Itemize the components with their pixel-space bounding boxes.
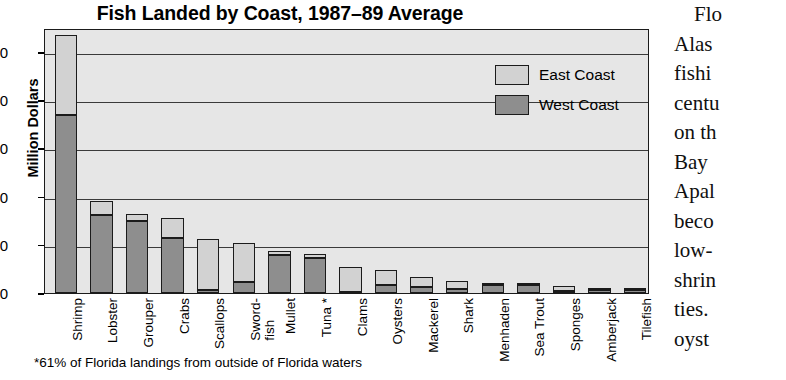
x-tick-label-sponges: Sponges xyxy=(569,298,583,351)
bar-segment-west-coast xyxy=(517,285,539,293)
x-tick-label-crabs: Crabs xyxy=(178,298,192,334)
bar-tuna- xyxy=(304,254,326,293)
bar-scallops xyxy=(197,239,219,293)
bar-segment-west-coast xyxy=(233,282,255,293)
legend-label: East Coast xyxy=(539,66,615,84)
bar-segment-west-coast xyxy=(161,238,183,293)
chart-footnote: *61% of Florida landings from outside of… xyxy=(34,355,362,370)
bar-segment-east-coast xyxy=(197,239,219,290)
bar-segment-west-coast xyxy=(410,287,432,293)
bar-segment-west-coast xyxy=(197,290,219,293)
bar-segment-west-coast xyxy=(375,285,397,293)
bar-segment-west-coast xyxy=(55,115,77,293)
article-text-line: Alas xyxy=(660,30,786,60)
y-tick-label-40: 40 xyxy=(0,92,8,109)
x-tick-label-mackerel: Mackerel xyxy=(427,298,441,353)
y-tick-label-50: 50 xyxy=(0,44,8,61)
article-text-line: Apal xyxy=(660,177,786,207)
article-text-line: shrin xyxy=(660,266,786,296)
bar-segment-west-coast xyxy=(553,291,575,293)
bar-crabs xyxy=(161,218,183,293)
x-tick-label-sword-fish: Sword- fish xyxy=(249,298,276,341)
bar-clams xyxy=(339,267,361,294)
bar-segment-west-coast xyxy=(482,285,504,293)
bar-segment-east-coast xyxy=(90,201,112,214)
chart-figure: Fish Landed by Coast, 1987–89 Average 01… xyxy=(0,0,660,380)
bar-oysters xyxy=(375,270,397,293)
bar-segment-west-coast xyxy=(126,221,148,293)
bar-sponges xyxy=(553,286,575,293)
bar-segment-east-coast xyxy=(446,281,468,289)
bar-menhaden xyxy=(482,284,504,293)
x-tick-label-tuna-: Tuna * xyxy=(320,298,334,337)
article-text-line: oyst xyxy=(660,325,786,355)
y-tick-mark-0 xyxy=(38,293,44,295)
article-text-column: FloAlasfishicentuon thBayApalbecolow-shr… xyxy=(660,0,786,380)
y-tick-label-30: 30 xyxy=(0,140,8,157)
y-tick-label-0: 0 xyxy=(0,285,8,302)
bar-segment-west-coast xyxy=(90,215,112,293)
x-tick-label-scallops: Scallops xyxy=(213,298,227,349)
y-tick-mark-10 xyxy=(38,245,44,247)
legend-swatch-east-coast xyxy=(495,65,529,85)
x-tick-label-mullet: Mullet xyxy=(284,298,298,334)
x-tick-label-sea-trout: Sea Trout xyxy=(533,298,547,357)
bar-mackerel xyxy=(410,277,432,293)
x-tick-label-tilefish: Tilefish xyxy=(640,298,654,340)
bar-segment-east-coast xyxy=(55,35,77,115)
bar-mullet xyxy=(268,251,290,293)
bar-segment-east-coast xyxy=(161,218,183,238)
bar-lobster xyxy=(90,201,112,293)
gridline-20 xyxy=(45,199,648,200)
chart-legend: East CoastWest Coast xyxy=(495,62,637,122)
bar-tilefish xyxy=(624,289,646,293)
article-text-line: fishi xyxy=(660,59,786,89)
bar-sword-fish xyxy=(233,243,255,293)
bar-shark xyxy=(446,281,468,293)
x-tick-label-clams: Clams xyxy=(356,298,370,336)
bar-segment-east-coast xyxy=(233,243,255,282)
bar-segment-west-coast xyxy=(304,258,326,293)
legend-item-west-coast: West Coast xyxy=(495,92,637,118)
bar-segment-west-coast xyxy=(268,255,290,293)
x-tick-label-grouper: Grouper xyxy=(142,298,156,348)
bar-segment-east-coast xyxy=(339,267,361,292)
article-text-line: low- xyxy=(660,236,786,266)
y-tick-label-20: 20 xyxy=(0,189,8,206)
x-tick-label-lobster: Lobster xyxy=(106,298,120,343)
bar-amberjack xyxy=(588,289,610,293)
y-tick-label-10: 10 xyxy=(0,237,8,254)
bar-grouper xyxy=(126,214,148,294)
bar-shrimp xyxy=(55,35,77,293)
bar-segment-east-coast xyxy=(126,214,148,221)
page-root: Fish Landed by Coast, 1987–89 Average 01… xyxy=(0,0,786,380)
legend-label: West Coast xyxy=(539,96,619,114)
article-text-line: Flo xyxy=(660,0,786,30)
x-tick-label-shark: Shark xyxy=(462,298,476,333)
x-tick-label-menhaden: Menhaden xyxy=(498,298,512,362)
article-text-line: centu xyxy=(660,89,786,119)
y-axis-label: Million Dollars xyxy=(25,53,41,203)
article-text-line: Bay xyxy=(660,148,786,178)
bar-segment-east-coast xyxy=(375,270,397,285)
gridline-30 xyxy=(45,150,648,151)
chart-title: Fish Landed by Coast, 1987–89 Average xyxy=(0,2,560,25)
bar-segment-east-coast xyxy=(410,277,432,287)
x-tick-label-oysters: Oysters xyxy=(391,298,405,345)
article-text-line: on th xyxy=(660,118,786,148)
article-text-line: ties. xyxy=(660,295,786,325)
bar-sea-trout xyxy=(517,285,539,293)
legend-item-east-coast: East Coast xyxy=(495,62,637,88)
legend-swatch-west-coast xyxy=(495,95,529,115)
bar-segment-west-coast xyxy=(339,291,361,293)
x-tick-label-shrimp: Shrimp xyxy=(71,298,85,341)
bar-segment-west-coast xyxy=(446,289,468,293)
bar-segment-west-coast xyxy=(624,290,646,293)
gridline-50 xyxy=(45,54,648,55)
bar-segment-west-coast xyxy=(588,290,610,293)
article-text-line: beco xyxy=(660,207,786,237)
x-tick-label-amberjack: Amberjack xyxy=(605,298,619,362)
